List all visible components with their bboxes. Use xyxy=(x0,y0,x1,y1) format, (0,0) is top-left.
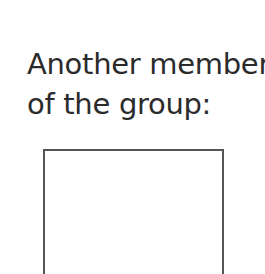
group-member-prompt: Another member of the group: xyxy=(27,44,265,124)
prompt-line-2: of the group: xyxy=(27,84,265,124)
prompt-line-1: Another member xyxy=(27,44,265,84)
answer-box[interactable] xyxy=(43,149,224,274)
